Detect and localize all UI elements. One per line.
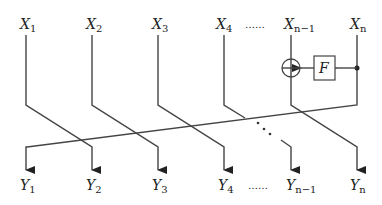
- output-label-y2: Y2: [86, 177, 102, 195]
- ellipsis-dot: [257, 122, 260, 125]
- feistel-network-diagram: X1 X2 X3 X4 …… Xn−1 Xn F Y1 Y2 Y3 Y4 ……: [0, 0, 382, 205]
- output-label-y3: Y3: [152, 177, 168, 195]
- wire-xn-to-y1: [26, 35, 357, 170]
- output-label-y1: Y1: [20, 177, 36, 195]
- wire-x2-to-y3: [92, 35, 158, 170]
- wire-x1-to-y2: [26, 35, 92, 170]
- wire-yn-1-stub: [281, 140, 291, 170]
- round-function: F: [282, 56, 360, 80]
- wire-x3-to-y4: [158, 35, 224, 170]
- wire-x4-stub: [224, 35, 245, 118]
- input-label-xn: Xn: [349, 16, 367, 34]
- input-label-x3: X3: [151, 16, 168, 34]
- input-ellipsis: ……: [245, 19, 265, 30]
- output-label-y4: Y4: [218, 177, 234, 195]
- ellipsis-dot: [263, 128, 266, 131]
- ellipsis-dot: [269, 133, 272, 136]
- function-box-label: F: [318, 60, 330, 76]
- input-label-x2: X2: [85, 16, 102, 34]
- input-label-x1: X1: [19, 16, 36, 34]
- output-label-yn-1: Yn−1: [286, 177, 316, 195]
- input-label-xn-1: Xn−1: [283, 16, 315, 34]
- output-labels: Y1 Y2 Y3 Y4 …… Yn−1 Yn: [20, 177, 366, 195]
- input-labels: X1 X2 X3 X4 …… Xn−1 Xn: [19, 16, 367, 34]
- output-ellipsis: ……: [248, 180, 268, 191]
- output-label-yn: Yn: [350, 177, 366, 195]
- input-label-x4: X4: [215, 16, 232, 34]
- wire-xn-1-to-yn: [291, 35, 357, 170]
- wires: [26, 35, 357, 170]
